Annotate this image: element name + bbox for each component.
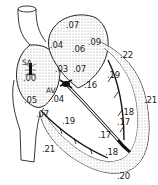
time-label: .20 — [117, 172, 130, 181]
heart-drawing — [0, 0, 158, 185]
time-label: .17 — [117, 118, 130, 127]
time-label: .07 — [66, 21, 79, 30]
time-label: .17 — [98, 131, 111, 140]
time-label: .19 — [107, 71, 120, 80]
time-label: .07 — [73, 65, 86, 74]
heart-conduction-diagram: SA AV .07 .04 .06 .09 .22 .03 .07 .00 .1… — [0, 0, 158, 185]
time-label: .03 — [55, 65, 68, 74]
time-label: .09 — [88, 38, 101, 47]
time-label: .05 — [24, 96, 37, 105]
av-node — [60, 80, 72, 88]
sa-node-label: SA — [22, 58, 32, 67]
time-label: .04 — [50, 41, 63, 50]
time-label: .16 — [84, 81, 97, 90]
time-label: .18 — [105, 148, 118, 157]
time-label: .00 — [23, 74, 36, 83]
time-label: .06 — [72, 45, 85, 54]
time-label: .22 — [120, 51, 133, 60]
time-label: .21 — [42, 145, 55, 154]
time-label: .21 — [144, 96, 157, 105]
time-label: .07 — [36, 110, 49, 119]
superior-vena-cava — [18, 6, 46, 45]
time-label: .19 — [62, 117, 75, 126]
time-label: .04 — [51, 95, 64, 104]
time-label: .18 — [121, 108, 134, 117]
